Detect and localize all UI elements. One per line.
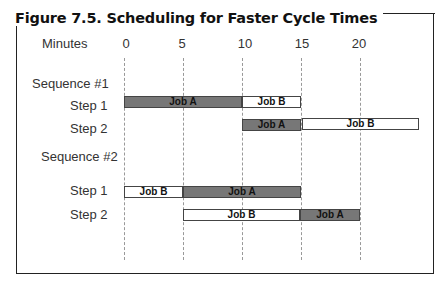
bar-seq1-step2-job-a: Job A	[242, 119, 301, 131]
gridline-5	[183, 58, 184, 260]
bar-seq1-step1-job-b: Job B	[242, 96, 301, 108]
tick-5: 5	[178, 36, 185, 51]
row-label-sequence-2: Sequence #2	[41, 149, 118, 164]
row-label-seq2-step-2: Step 2	[70, 207, 108, 222]
bar-seq1-step1-job-a: Job A	[124, 96, 242, 108]
gridline-20	[360, 58, 361, 260]
tick-15: 15	[295, 36, 309, 51]
figure-title: Figure 7.5. Scheduling for Faster Cycle …	[15, 10, 383, 26]
gridline-0	[124, 58, 125, 260]
tick-0: 0	[122, 36, 129, 51]
gridline-10	[242, 58, 243, 260]
figure-frame	[16, 13, 434, 274]
tick-20: 20	[352, 36, 366, 51]
bar-seq2-step2-job-b: Job B	[183, 209, 300, 221]
tick-10: 10	[238, 36, 252, 51]
gridline-15	[301, 58, 302, 260]
row-label-sequence-1: Sequence #1	[32, 76, 109, 91]
row-label-seq1-step-2: Step 2	[70, 121, 108, 136]
bar-seq2-step1-job-b: Job B	[124, 186, 183, 198]
row-label-seq1-step-1: Step 1	[70, 98, 108, 113]
bar-seq1-step2-job-b: Job B	[302, 118, 419, 130]
row-label-seq2-step-1: Step 1	[70, 183, 108, 198]
bar-seq2-step2-job-a: Job A	[300, 209, 360, 221]
bar-seq2-step1-job-a: Job A	[183, 186, 301, 198]
axis-label: Minutes	[42, 36, 88, 51]
